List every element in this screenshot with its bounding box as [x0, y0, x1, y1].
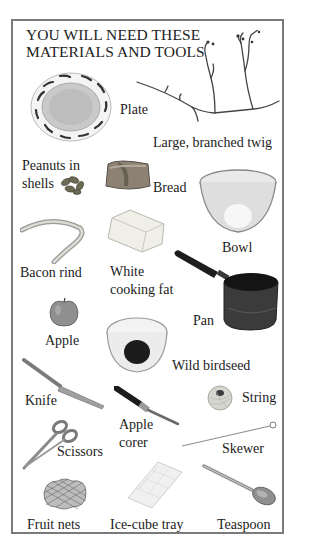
cooking-fat-icon	[106, 208, 166, 254]
label-cooking-fat: White cooking fat	[110, 264, 173, 297]
twig-icon	[135, 30, 287, 130]
label-string: String	[242, 390, 276, 405]
label-scissors: Scissors	[57, 444, 103, 459]
label-teaspoon: Teaspoon	[217, 517, 270, 532]
string-icon	[207, 385, 233, 411]
peanuts-icon	[60, 174, 86, 196]
birdseed-icon	[105, 316, 169, 374]
label-twig: Large, branched twig	[153, 135, 272, 150]
bread-icon	[104, 158, 152, 192]
label-apple-corer: Apple corer	[119, 417, 153, 450]
label-bacon-rind: Bacon rind	[20, 265, 82, 280]
label-knife: Knife	[25, 393, 57, 408]
label-pan: Pan	[193, 313, 214, 328]
fruit-nets-icon	[40, 477, 88, 511]
label-skewer: Skewer	[222, 441, 264, 456]
label-apple: Apple	[45, 333, 79, 348]
label-ice-cube-tray: Ice-cube tray	[110, 517, 183, 532]
teaspoon-icon	[200, 462, 278, 506]
bacon-rind-icon	[20, 218, 86, 264]
ice-cube-tray-icon	[124, 460, 184, 510]
label-fruit-nets: Fruit nets	[27, 517, 80, 532]
label-bread: Bread	[153, 180, 186, 195]
plate-icon	[30, 72, 112, 142]
apple-icon	[48, 296, 80, 328]
label-birdseed: Wild birdseed	[172, 358, 250, 373]
pan-icon	[172, 250, 282, 332]
bowl-icon	[198, 168, 278, 234]
